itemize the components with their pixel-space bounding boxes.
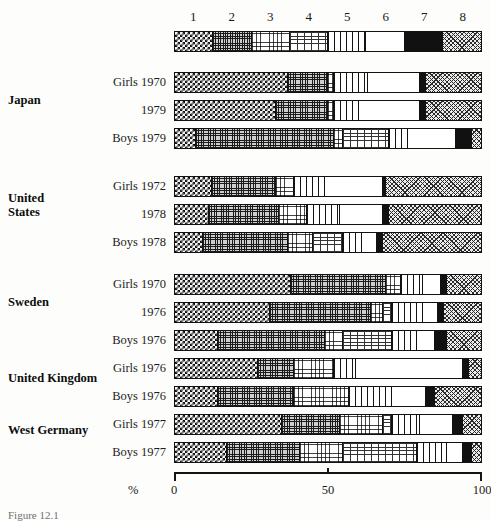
bar-segment-1: [175, 331, 218, 350]
bar-segment-6: [423, 275, 441, 294]
row-label: Boys 1977: [40, 442, 166, 463]
bar-segment-1: [175, 303, 270, 322]
row-label: 1976: [40, 302, 166, 323]
bar-segment-8: [383, 233, 481, 252]
row-label: Girls 1970: [40, 72, 166, 93]
bar-segment-8: [386, 177, 481, 196]
bar-segment-1: [175, 387, 218, 406]
bar-segment-4: [383, 303, 392, 322]
x-axis: 050100: [174, 472, 482, 481]
bar-segment-2: [218, 331, 325, 350]
bar-segment-1: [175, 32, 213, 51]
stacked-bar-row: [174, 358, 482, 379]
bar-segment-5: [334, 101, 358, 120]
legend-number-6: 6: [383, 8, 390, 26]
bar-segment-5: [389, 129, 407, 148]
row-label: Boys 1979: [40, 128, 166, 149]
stacked-bar-row: [174, 330, 482, 351]
bar-segment-8: [469, 359, 481, 378]
legend-number-2: 2: [229, 8, 236, 26]
bar-segment-4: [383, 415, 392, 434]
stacked-bar: [174, 330, 482, 351]
bar-segment-6: [423, 303, 438, 322]
bar-segment-4: [290, 32, 328, 51]
legend-number-5: 5: [344, 8, 351, 26]
row-label: 1978: [40, 204, 166, 225]
bar-segment-2: [209, 205, 279, 224]
row-label: Girls 1972: [40, 176, 166, 197]
bar-segment-5: [392, 415, 420, 434]
row-label: Girls 1977: [40, 414, 166, 435]
stacked-bar-row: [174, 204, 482, 225]
bar-segment-8: [472, 129, 481, 148]
bar-segment-2: [276, 101, 328, 120]
bar-segment-8: [472, 443, 481, 462]
stacked-bar-row: [174, 414, 482, 435]
bar-segment-5: [307, 205, 341, 224]
bar-segment-7: [463, 443, 472, 462]
stacked-bar: [174, 100, 482, 121]
bar-segment-6: [447, 443, 462, 462]
legend-key-bar: [174, 31, 482, 52]
bar-segment-5: [343, 233, 361, 252]
axis-tick-0: [174, 472, 176, 481]
bar-segment-8: [444, 303, 481, 322]
bar-segment-2: [213, 32, 251, 51]
bar-segment-4: [343, 331, 392, 350]
legend-number-1: 1: [190, 8, 197, 26]
bar-segment-5: [294, 177, 325, 196]
axis-tick-label-100: 100: [473, 483, 491, 497]
bar-segment-2: [288, 73, 328, 92]
bar-segment-3: [386, 275, 401, 294]
bar-segment-7: [453, 415, 462, 434]
bar-segment-8: [426, 73, 481, 92]
bar-segment-2: [282, 415, 340, 434]
bar-segment-2: [203, 233, 289, 252]
bar-segment-4: [343, 443, 416, 462]
bar-segment-1: [175, 73, 288, 92]
axis-tick-100: [480, 472, 482, 481]
axis-tick-label-50: 50: [322, 483, 335, 497]
stacked-bar-row: [174, 232, 482, 253]
bar-segment-3: [325, 331, 343, 350]
bar-segment-6: [408, 129, 457, 148]
bar-segment-4: [343, 129, 389, 148]
stacked-bar-row: [174, 100, 482, 121]
bar-segment-2: [212, 177, 276, 196]
axis-tick-50: [327, 468, 329, 474]
axis-tick-label-0: 0: [171, 483, 177, 497]
stacked-bar: [174, 358, 482, 379]
axis-unit-label: %: [128, 483, 138, 498]
bar-segment-8: [389, 205, 481, 224]
legend-number-8: 8: [460, 8, 467, 26]
bar-segment-7: [435, 331, 447, 350]
stacked-bar: [174, 386, 482, 407]
bar-segment-5: [392, 303, 423, 322]
bar-segment-3: [279, 205, 307, 224]
bar-segment-5: [349, 387, 392, 406]
stacked-bar: [174, 204, 482, 225]
bar-segment-8: [435, 387, 481, 406]
bar-segment-6: [356, 359, 463, 378]
bar-segment-6: [340, 205, 383, 224]
stacked-bar: [174, 442, 482, 463]
bar-segment-2: [218, 387, 295, 406]
bar-segment-5: [334, 73, 368, 92]
bar-segment-7: [426, 387, 435, 406]
row-label: Boys 1976: [40, 330, 166, 351]
bar-segment-8: [426, 101, 481, 120]
bar-segment-6: [417, 331, 435, 350]
bar-segment-1: [175, 101, 276, 120]
bar-segment-1: [175, 233, 203, 252]
bar-segment-1: [175, 177, 212, 196]
stacked-bar: [174, 128, 482, 149]
bar-segment-4: [313, 233, 344, 252]
bar-segment-3: [288, 233, 312, 252]
bar-segment-3: [300, 443, 343, 462]
bar-segment-6: [392, 387, 426, 406]
row-label: Girls 1976: [40, 358, 166, 379]
bar-segment-5: [328, 32, 366, 51]
row-label: Girls 1970: [40, 274, 166, 295]
bar-segment-1: [175, 275, 291, 294]
